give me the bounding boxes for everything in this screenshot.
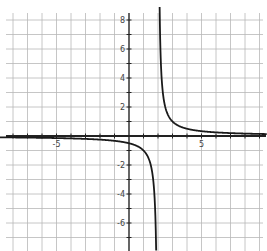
y-tick-label: -4 [117, 190, 125, 199]
x-tick-label: 5 [199, 140, 204, 149]
y-tick-label: -2 [117, 161, 125, 170]
function-graph: -558642-2-4-6 [0, 0, 267, 251]
axis-ticks [13, 20, 260, 238]
curve-branches [0, 7, 267, 251]
y-tick-label: 2 [120, 103, 125, 112]
y-tick-label: 6 [120, 45, 125, 54]
y-tick-label: -6 [117, 219, 125, 228]
y-tick-label: 4 [120, 74, 125, 83]
y-tick-label: 8 [120, 16, 125, 25]
x-tick-label: -5 [53, 140, 61, 149]
curve-right-branch [160, 7, 267, 134]
